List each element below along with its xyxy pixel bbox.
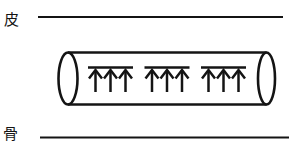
tube-left-cap: [59, 53, 78, 105]
up-arrow-icon: [176, 70, 189, 92]
up-arrow-icon: [89, 70, 102, 92]
up-arrow-icon: [217, 70, 230, 92]
up-arrow-icon: [202, 70, 215, 92]
up-arrow-icon: [161, 70, 174, 92]
tube-right-cap: [258, 53, 275, 105]
diagram-svg: 皮 骨: [0, 0, 295, 158]
fiber-bundle: [88, 68, 133, 93]
bone-label: 骨: [3, 125, 18, 143]
fiber-bundle: [145, 68, 190, 93]
up-arrow-icon: [104, 70, 117, 92]
anatomy-diagram: 皮 骨: [0, 0, 295, 158]
up-arrow-icon: [146, 70, 159, 92]
up-arrow-icon: [232, 70, 245, 92]
fiber-bundle: [201, 68, 246, 93]
skin-label: 皮: [4, 11, 19, 29]
up-arrow-icon: [119, 70, 132, 92]
